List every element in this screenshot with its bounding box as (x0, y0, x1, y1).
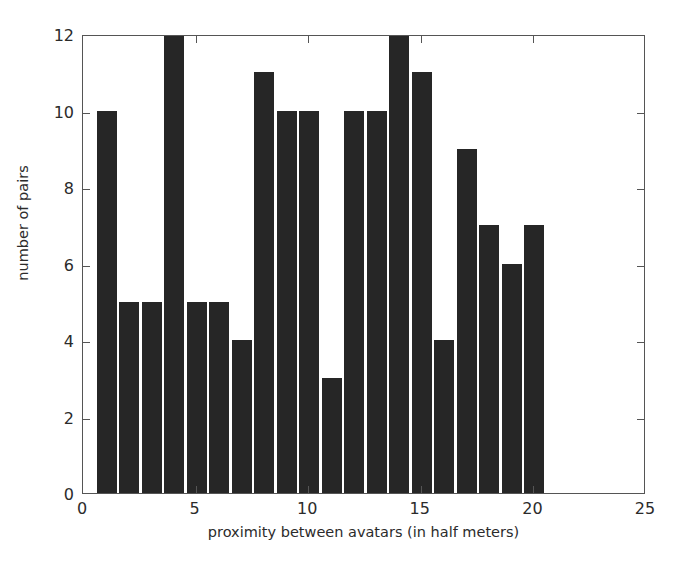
histogram-bar (97, 111, 117, 494)
x-tick-label: 5 (190, 499, 200, 518)
histogram-bar (412, 72, 432, 493)
histogram-bar (119, 302, 139, 493)
histogram-bar (457, 149, 477, 493)
x-tick-mark (421, 486, 422, 493)
histogram-bar (344, 111, 364, 494)
histogram-bar (367, 111, 387, 494)
histogram-bar (254, 72, 274, 493)
x-tick-mark (421, 36, 422, 43)
histogram-bar (322, 378, 342, 493)
histogram-bar (209, 302, 229, 493)
x-tick-label: 25 (635, 499, 655, 518)
y-tick-label: 4 (74, 332, 84, 351)
x-tick-mark (533, 486, 534, 493)
y-tick-mark (637, 113, 644, 114)
x-tick-mark (196, 486, 197, 493)
x-tick-mark (533, 36, 534, 43)
histogram-bar (164, 35, 184, 493)
x-tick-label: 15 (410, 499, 430, 518)
x-tick-label: 20 (522, 499, 542, 518)
x-tick-label: 10 (297, 499, 317, 518)
y-tick-label: 0 (74, 485, 84, 504)
y-tick-label: 2 (74, 408, 84, 427)
histogram-bar (502, 264, 522, 494)
histogram-bar (389, 35, 409, 493)
x-tick-mark (308, 36, 309, 43)
histogram-bar (479, 225, 499, 493)
histogram-bar (524, 225, 544, 493)
y-tick-mark (637, 419, 644, 420)
y-tick-label: 6 (74, 255, 84, 274)
histogram-bar (187, 302, 207, 493)
histogram-bar (277, 111, 297, 494)
x-tick-mark (308, 486, 309, 493)
y-tick-mark (637, 266, 644, 267)
plot-area (82, 35, 645, 494)
histogram-bar (142, 302, 162, 493)
y-tick-label: 8 (74, 179, 84, 198)
y-tick-label: 10 (74, 102, 94, 121)
histogram-bar (299, 111, 319, 494)
x-tick-mark (196, 36, 197, 43)
y-tick-label: 12 (74, 26, 94, 45)
histogram-figure: proximity between avatars (in half meter… (0, 0, 682, 573)
y-tick-mark (637, 342, 644, 343)
y-tick-mark (637, 189, 644, 190)
x-axis-label: proximity between avatars (in half meter… (82, 524, 645, 540)
y-axis-label: number of pairs (15, 143, 31, 303)
histogram-bar (434, 340, 454, 493)
histogram-bar (232, 340, 252, 493)
